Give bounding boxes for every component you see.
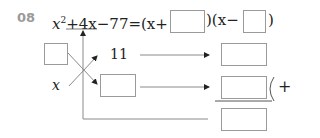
right-bottom-blank[interactable]	[221, 108, 267, 131]
right-top-blank[interactable]	[221, 43, 267, 66]
middle-blank[interactable]	[100, 74, 136, 97]
left-top-blank[interactable]	[44, 43, 68, 65]
right-middle-blank[interactable]	[221, 76, 267, 99]
left-var-x: x	[52, 77, 60, 93]
sum-sign: +	[278, 77, 291, 96]
top-value: 11	[110, 46, 128, 62]
